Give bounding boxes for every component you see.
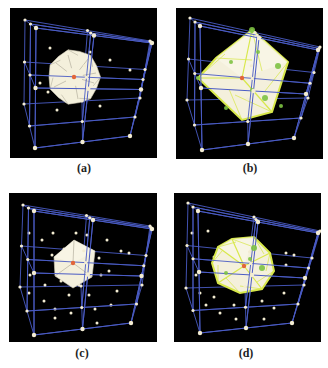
caption-d: (d) [216, 346, 276, 361]
caption-b: (b) [220, 161, 280, 176]
caption-c: (c) [52, 346, 112, 361]
panel-c [9, 193, 157, 342]
center-node [242, 264, 246, 268]
center-node [240, 76, 244, 80]
lattice-render-a [10, 8, 157, 158]
lattice-render-b [176, 8, 323, 159]
caption-a: (a) [54, 161, 114, 176]
center-node [72, 75, 76, 79]
lattice-render-c [9, 193, 157, 342]
panel-a [10, 8, 157, 158]
panel-d [174, 193, 321, 342]
center-node [71, 261, 75, 265]
lattice-render-d [174, 193, 321, 342]
panel-b [176, 8, 323, 159]
